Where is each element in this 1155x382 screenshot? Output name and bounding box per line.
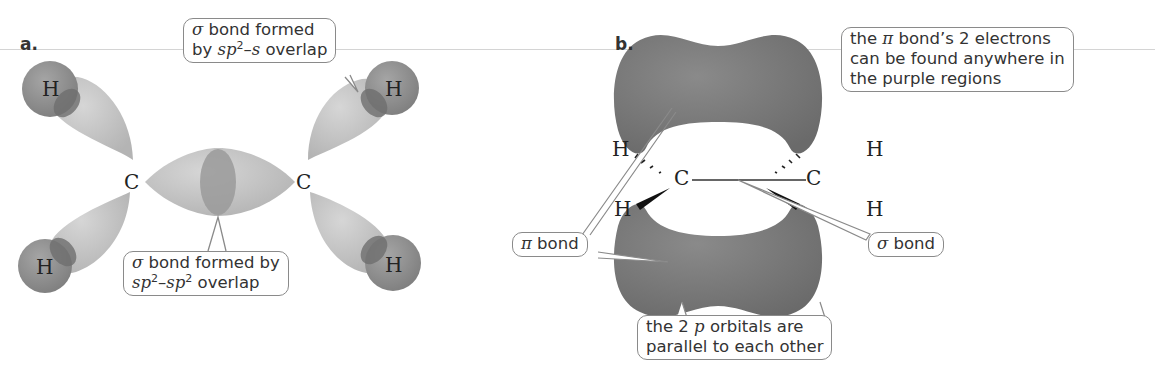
atom-h-top-right: H [866, 137, 883, 161]
callout-text: by [192, 40, 217, 59]
callout-text: sp [166, 273, 185, 292]
callout-text: – [244, 40, 252, 59]
callout-text: bond’s 2 electrons [893, 29, 1051, 48]
callout-parallel-p-orbitals: the 2 p orbitals are parallel to each ot… [637, 315, 832, 360]
atom-h-top-right: H [385, 77, 402, 101]
sigma-symbol: σ [192, 20, 203, 39]
atom-h-top-left: H [612, 137, 629, 161]
callout-sigma-bond: σ bond [868, 232, 944, 257]
callout-text: can be found anywhere in [850, 49, 1065, 69]
sigma-symbol: σ [877, 234, 888, 253]
callout-text: sp [132, 273, 151, 292]
callout-text: the [850, 29, 882, 48]
callout-text: orbitals are [705, 317, 804, 336]
callout-pi-bond: π bond [512, 232, 588, 257]
callout-text: bond formed [203, 20, 314, 39]
callout-text: overlap [192, 273, 259, 292]
panel-b-label: b. [615, 34, 634, 54]
atom-c-left: C [124, 170, 139, 194]
callout-text: bond [888, 234, 935, 253]
atom-c-right: C [806, 166, 821, 190]
atom-h-bottom-left: H [36, 255, 53, 279]
atom-h-bottom-left: H [614, 197, 631, 221]
callout-text: bond formed by [143, 253, 280, 272]
callout-sp2-s-overlap: σ bond formed by sp2–s overlap [183, 18, 336, 63]
atom-h-bottom-right: H [866, 197, 883, 221]
sigma-symbol: σ [132, 253, 143, 272]
callout-pi-electrons: the π bond’s 2 electrons can be found an… [841, 27, 1074, 92]
pi-cloud-upper [614, 35, 822, 154]
callout-text: p [694, 317, 705, 336]
callout-text: parallel to each other [646, 337, 823, 357]
callout-text: the purple regions [850, 69, 1065, 89]
callout-text: sp [217, 40, 236, 59]
pi-symbol: π [882, 29, 893, 48]
callout-text: overlap [260, 40, 327, 59]
callout-sp2-sp2-overlap: σ bond formed by sp2–sp2 overlap [123, 251, 289, 296]
callout-text: 2 [151, 272, 158, 285]
atom-c-left: C [674, 166, 689, 190]
atom-c-right: C [296, 170, 311, 194]
atom-h-bottom-right: H [385, 253, 402, 277]
callout-text: 2 [237, 39, 244, 52]
callout-text: bond [532, 234, 579, 253]
atom-h-top-left: H [42, 77, 59, 101]
callout-text: the 2 [646, 317, 694, 336]
callout-text: s [252, 40, 260, 59]
pi-symbol: π [521, 234, 532, 253]
